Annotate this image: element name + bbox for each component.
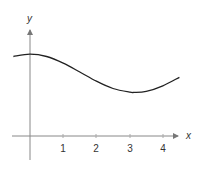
x-tick-label: 4 [160, 143, 166, 154]
chart-canvas: x y 1 2 3 4 [0, 0, 199, 176]
x-tick-label: 2 [93, 143, 99, 154]
x-axis-label: x [185, 130, 192, 141]
y-axis-label: y [26, 13, 33, 24]
y-axis: y [26, 13, 33, 160]
x-tick-label: 1 [60, 143, 66, 154]
x-ticks: 1 2 3 4 [60, 134, 166, 154]
x-axis: x [12, 130, 192, 141]
function-curve [13, 54, 179, 92]
x-tick-label: 3 [127, 143, 133, 154]
